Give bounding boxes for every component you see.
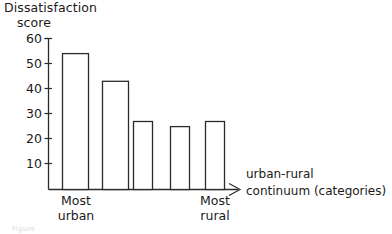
bar-5 [206,122,225,190]
x-category-label-most-urban-line-2: urban [47,208,105,223]
bar-2 [103,81,129,189]
x-category-label-most-rural-line-1: Most [186,193,244,208]
x-category-label-most-rural: Most rural [186,193,244,223]
bar-3 [134,122,153,190]
figure-bar-chart: Dissatisfaction score 60 50 40 30 20 10 [0,0,392,234]
x-axis-title: urban-rural continuum (categories) [246,166,386,200]
x-axis-title-line-2: continuum (categories) [246,183,386,200]
figure-caption-ghost: Figure [12,225,35,233]
bar-series [63,54,225,190]
x-category-label-most-urban: Most urban [47,193,105,223]
bar-1 [63,54,89,190]
x-axis-title-line-1: urban-rural [246,166,386,183]
bar-4 [171,127,190,190]
x-category-label-most-rural-line-2: rural [186,208,244,223]
x-category-label-most-urban-line-1: Most [47,193,105,208]
